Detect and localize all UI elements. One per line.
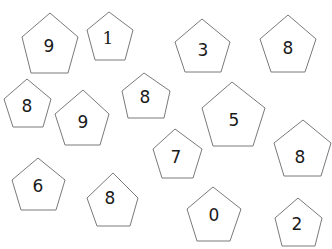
pentagon-number: 6: [33, 176, 44, 196]
pentagon-number: 9: [78, 112, 89, 132]
pentagon-number: 2: [292, 214, 303, 234]
pentagon-5: 5: [202, 82, 265, 146]
pentagon-8-right: 8: [274, 120, 331, 176]
pentagon-number: 1: [103, 28, 114, 48]
pentagon-0: 0: [187, 187, 241, 241]
pentagon-1: 1: [87, 12, 133, 60]
pentagon-9-middle: 9: [55, 90, 109, 145]
pentagon-8-left: 8: [4, 79, 51, 127]
pentagon-9-top-left: 9: [22, 13, 78, 73]
pentagon-6: 6: [12, 158, 65, 210]
pentagon-3: 3: [175, 19, 230, 72]
pentagon-8-top-right: 8: [260, 15, 316, 72]
pentagon-number: 5: [229, 110, 240, 130]
pentagon-number: 7: [171, 147, 182, 167]
pentagon-number: 8: [105, 188, 116, 208]
pentagon-number: 8: [295, 147, 306, 167]
pentagon-number: 8: [22, 96, 33, 116]
pentagon-number: 3: [198, 40, 209, 60]
pentagon-number-worksheet: 9 1 3 8 8 9 8 5 7 8 6 8: [0, 0, 332, 249]
pentagon-7: 7: [153, 129, 202, 178]
pentagon-number: 9: [44, 36, 55, 56]
pentagon-number: 8: [283, 38, 294, 58]
pentagon-number: 0: [209, 205, 220, 225]
pentagon-2: 2: [275, 198, 322, 246]
pentagon-number: 8: [140, 87, 151, 107]
pentagon-8-center: 8: [122, 73, 170, 118]
pentagon-8-bottom: 8: [87, 173, 138, 226]
